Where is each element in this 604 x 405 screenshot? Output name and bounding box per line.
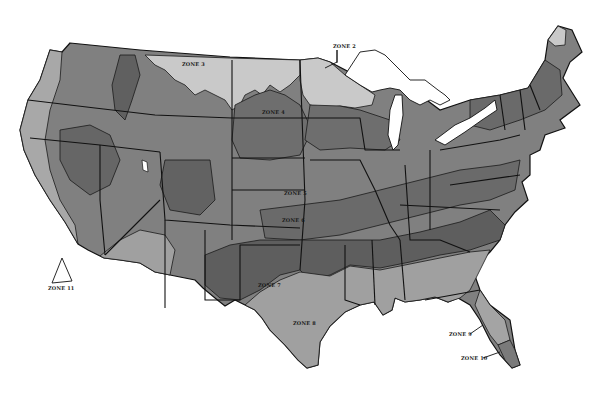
label-zone-7: ZONE 7 [258,282,281,288]
hardiness-zone-map: ZONE 2 ZONE 3 ZONE 4 ZONE 5 ZONE 6 ZONE … [0,0,604,405]
label-zone-9: ZONE 9 [449,331,472,337]
label-zone-3: ZONE 3 [182,61,205,67]
label-zone-8: ZONE 8 [293,320,316,326]
label-zone-11: ZONE 11 [48,285,75,291]
label-zone-4: ZONE 4 [262,109,285,115]
great-salt-lake [142,160,148,172]
label-zone-2: ZONE 2 [333,43,356,49]
label-zone-6: ZONE 6 [282,217,305,223]
label-zone-5: ZONE 5 [284,190,307,196]
